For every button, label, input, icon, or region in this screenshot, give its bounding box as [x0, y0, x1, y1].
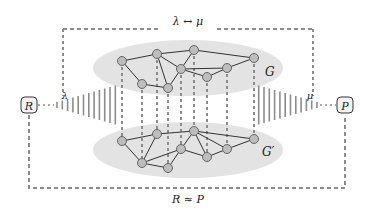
mu-wave — [259, 86, 336, 125]
mu-label: μ — [307, 90, 314, 101]
graph-bottom-label: G′ — [262, 145, 275, 159]
bottom-label: R ≈ P — [171, 193, 204, 206]
graph-bottom-node — [203, 153, 212, 162]
graph-top-node — [118, 57, 127, 66]
graph-bottom-node — [153, 130, 162, 139]
graph-bottom-node — [250, 135, 259, 144]
graph-bottom-node — [177, 145, 186, 154]
node-r-label: R — [24, 100, 33, 113]
graph-top-node — [138, 80, 147, 89]
lambda-wave — [38, 86, 115, 125]
graph-bottom-node — [118, 137, 127, 146]
graph-top-node — [190, 46, 199, 55]
graph-bottom-node — [138, 159, 147, 168]
lambda-label: λ — [61, 90, 68, 101]
graph-top-node — [203, 73, 212, 82]
graph-top-node — [164, 84, 173, 93]
graph-top-node — [177, 65, 186, 74]
graph-top-label: G — [265, 65, 275, 79]
graph-bottom-node — [223, 145, 232, 154]
node-p-label: P — [340, 100, 349, 113]
graph-diagram: R P λ ↔ μ R ≈ P λ μ G G′ — [0, 0, 375, 214]
graph-bottom-node — [190, 127, 199, 136]
graph-top-node — [153, 50, 162, 59]
graph-top-node — [223, 64, 232, 73]
graph-top-node — [250, 54, 259, 63]
graph-bottom-node — [164, 164, 173, 173]
top-label: λ ↔ μ — [172, 15, 203, 28]
